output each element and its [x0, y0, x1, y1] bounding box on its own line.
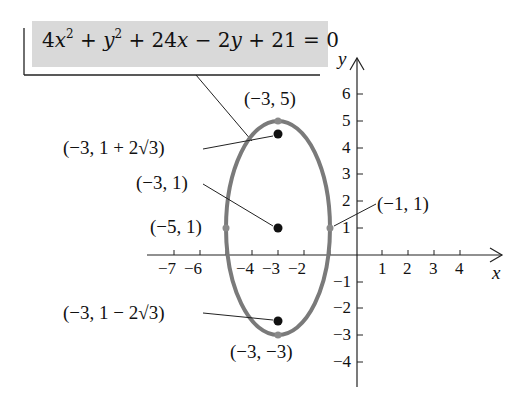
x-ticks [174, 250, 460, 255]
label-bottom-vertex: (−3, −3) [230, 341, 293, 363]
y-ticks [357, 94, 363, 362]
x-tick-label: −4 [236, 259, 254, 279]
x-tick-label: −7 [158, 259, 176, 279]
label-right-covertex: (−1, 1) [377, 193, 429, 215]
y-tick-label: −4 [333, 352, 351, 372]
label-lower-focus: (−3, 1 − 2√3) [63, 302, 165, 324]
label-center: (−3, 1) [136, 172, 188, 194]
y-tick-label: 6 [342, 84, 351, 104]
upper-focus-leader [203, 136, 273, 149]
y-tick-label: 5 [342, 111, 351, 131]
label-left-covertex: (−5, 1) [150, 216, 202, 238]
x-tick-label: −2 [288, 259, 306, 279]
left-covertex-marker [223, 225, 230, 232]
x-tick-label: 4 [455, 259, 464, 279]
center-dot [274, 224, 283, 233]
upper-focus-dot [274, 130, 283, 139]
y-tick-label: 3 [342, 164, 351, 184]
y-tick-label: −3 [333, 325, 351, 345]
y-tick-label: −2 [333, 298, 351, 318]
label-top-vertex: (−3, 5) [244, 88, 296, 110]
x-tick-label: −3 [262, 259, 280, 279]
x-tick-label: 1 [378, 259, 387, 279]
right-covertex-leader [334, 204, 376, 226]
x-axis-label: x [492, 262, 500, 284]
y-tick-label: 1 [342, 218, 351, 238]
y-tick-label: 2 [342, 191, 351, 211]
lower-focus-dot [274, 317, 283, 326]
right-covertex-marker [327, 225, 334, 232]
ellipse-figure: 4x2 + y2 + 24x − 2y + 21 = 0 [0, 0, 530, 408]
x-tick-label: −6 [184, 259, 202, 279]
lower-focus-leader [203, 313, 273, 320]
x-tick-label: 2 [403, 259, 412, 279]
bottom-vertex-marker [275, 332, 282, 339]
x-tick-label: 3 [429, 259, 438, 279]
label-upper-focus: (−3, 1 + 2√3) [63, 137, 165, 159]
y-axis-label: y [338, 48, 346, 70]
y-tick-label: 4 [342, 138, 351, 158]
y-tick-label: −1 [333, 272, 351, 292]
center-leader [203, 184, 273, 226]
top-vertex-marker [275, 118, 282, 125]
